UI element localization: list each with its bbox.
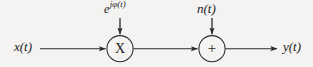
input-signal-label: x(t) xyxy=(14,40,32,53)
diagram-canvas xyxy=(0,0,313,67)
phase-rotation-label: ejφ(t) xyxy=(104,1,125,15)
phase-rotation-exponent: jφ(t) xyxy=(110,0,126,9)
phase-rotation-base: e xyxy=(104,2,109,16)
adder-glyph: + xyxy=(199,41,225,56)
signal-flow-diagram: x(t) ejφ(t) n(t) X + y(t) xyxy=(0,0,313,67)
multiplier-glyph: X xyxy=(107,42,133,56)
noise-signal-label: n(t) xyxy=(197,2,216,15)
output-signal-label: y(t) xyxy=(283,40,301,53)
